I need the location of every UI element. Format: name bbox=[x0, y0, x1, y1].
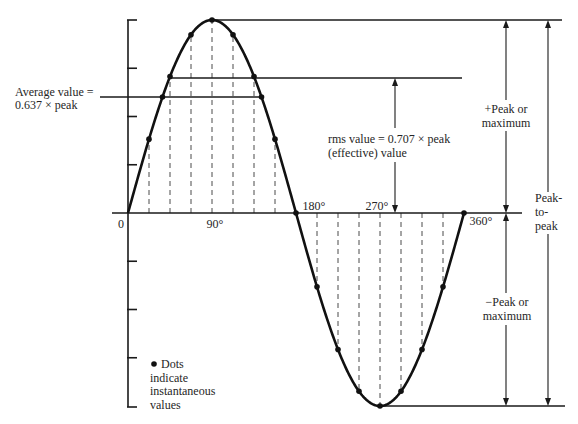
neg-peak-label-line1: −Peak or bbox=[485, 295, 528, 309]
arrow-down-icon bbox=[503, 205, 509, 213]
arrow-up-icon bbox=[392, 78, 398, 86]
instantaneous-value-dot bbox=[314, 284, 320, 290]
x-tick-0: 0 bbox=[118, 217, 124, 231]
instantaneous-value-dot bbox=[461, 210, 467, 216]
legend-line3: instantaneous bbox=[150, 384, 216, 398]
arrow-up-icon bbox=[503, 213, 509, 221]
legend-line1: Dots bbox=[161, 357, 184, 371]
instantaneous-value-dot bbox=[167, 74, 173, 80]
arrow-up-icon bbox=[503, 20, 509, 28]
instantaneous-value-dot bbox=[398, 389, 404, 395]
neg-peak-label-line2: maximum bbox=[483, 309, 532, 323]
instantaneous-value-dot bbox=[419, 347, 425, 353]
p2p-label-line1: Peak- bbox=[535, 191, 562, 205]
x-tick-180: 180° bbox=[303, 199, 326, 213]
arrow-down-icon bbox=[503, 398, 509, 406]
instantaneous-value-dot bbox=[272, 136, 278, 142]
diagram-svg: Average value = 0.637 × peak rms value =… bbox=[0, 0, 578, 424]
average-intersection-dot bbox=[160, 94, 166, 100]
instantaneous-value-dot bbox=[230, 32, 236, 38]
average-label-line1: Average value = bbox=[15, 85, 94, 99]
instantaneous-value-dot bbox=[335, 347, 341, 353]
x-tick-270: 270° bbox=[366, 199, 389, 213]
average-label-line2: 0.637 × peak bbox=[15, 98, 77, 112]
instantaneous-value-dot bbox=[440, 284, 446, 290]
arrow-up-icon bbox=[545, 20, 551, 28]
instantaneous-value-dot bbox=[293, 210, 299, 216]
sine-wave-diagram: Average value = 0.637 × peak rms value =… bbox=[0, 0, 578, 424]
arrow-down-icon bbox=[545, 398, 551, 406]
pos-peak-label-line2: maximum bbox=[482, 116, 531, 130]
instantaneous-value-dot bbox=[146, 136, 152, 142]
rms-label-line1: rms value = 0.707 × peak bbox=[328, 132, 450, 146]
x-tick-360: 360° bbox=[470, 214, 493, 228]
arrow-down-icon bbox=[392, 205, 398, 213]
p2p-label-line2: to- bbox=[535, 205, 548, 219]
instantaneous-value-dot bbox=[356, 389, 362, 395]
average-intersection-dot bbox=[259, 94, 265, 100]
instantaneous-value-dot bbox=[377, 403, 383, 409]
legend-line4: values bbox=[150, 398, 181, 412]
instantaneous-value-dot bbox=[251, 74, 257, 80]
x-tick-90: 90° bbox=[207, 217, 224, 231]
instantaneous-value-dot bbox=[188, 32, 194, 38]
pos-peak-label-line1: +Peak or bbox=[484, 102, 527, 116]
legend-dot-icon bbox=[151, 361, 157, 367]
legend-line2: indicate bbox=[150, 371, 188, 385]
rms-label-line2: (effective) value bbox=[328, 146, 407, 160]
p2p-label-line3: peak bbox=[535, 219, 558, 233]
instantaneous-value-dot bbox=[209, 17, 215, 23]
